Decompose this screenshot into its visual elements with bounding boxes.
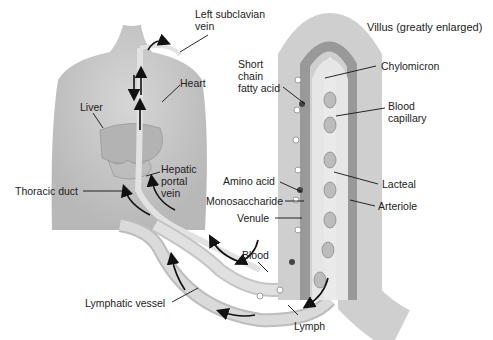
label-venule: Venule (237, 212, 269, 224)
label-line: Short (238, 58, 280, 70)
label-lymph: Lymph (294, 320, 325, 332)
villus-title: Villus (greatly enlarged) (367, 21, 482, 33)
label-line: fatty acid (238, 82, 280, 94)
label-blood: Blood (242, 249, 269, 261)
villus-absorption-diagram: Left subclavian vein Villus (greatly enl… (0, 0, 493, 340)
label-hepatic-portal-vein: Hepatic portal vein (161, 163, 197, 199)
label-line: chain (238, 70, 280, 82)
label-line: Hepatic (161, 163, 197, 175)
diagram-artwork (0, 0, 493, 340)
label-line: Left subclavian (195, 8, 265, 20)
label-heart: Heart (180, 77, 206, 89)
label-liver: Liver (80, 101, 103, 113)
label-line: portal (161, 175, 197, 187)
label-lymphatic-vessel: Lymphatic vessel (85, 297, 165, 309)
label-amino-acid: Amino acid (223, 175, 275, 187)
label-lacteal: Lacteal (382, 178, 416, 190)
label-chylomicron: Chylomicron (381, 60, 439, 72)
label-left-subclavian-vein: Left subclavian vein (195, 8, 265, 32)
label-line: vein (161, 187, 197, 199)
label-line: vein (195, 20, 265, 32)
label-arteriole: Arteriole (378, 200, 417, 212)
label-blood-capillary: Blood capillary (388, 100, 427, 124)
label-monosaccharide: Monosaccharide (206, 195, 283, 207)
label-line: capillary (388, 112, 427, 124)
label-short-chain-fatty-acid: Short chain fatty acid (238, 58, 280, 94)
label-line: Blood (388, 100, 427, 112)
label-thoracic-duct: Thoracic duct (15, 185, 78, 197)
